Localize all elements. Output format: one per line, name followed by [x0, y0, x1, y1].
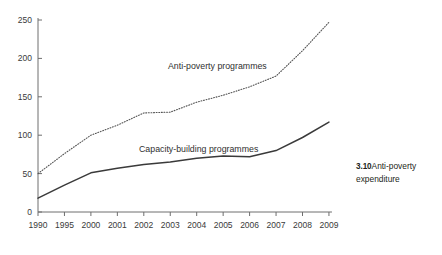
line-chart-svg: [0, 0, 345, 240]
y-axis-tick-label: 100: [8, 131, 32, 140]
x-axis-tick-label: 2009: [314, 221, 344, 230]
figure-caption: 3.10Anti-poverty expenditure: [356, 160, 440, 186]
y-axis-tick-label: 50: [8, 170, 32, 179]
figure-anti-poverty-expenditure: 050100150200250 199019952000200120022003…: [0, 0, 442, 255]
series-label-anti-poverty-programmes: Anti-poverty programmes: [168, 62, 267, 71]
y-axis-tick-label: 150: [8, 93, 32, 102]
figure-caption-number: 3.10: [356, 162, 372, 171]
series-line-capacity-building-programmes: [38, 122, 329, 198]
chart-axes: [38, 18, 332, 216]
chart-plot-area: 050100150200250 199019952000200120022003…: [0, 0, 345, 240]
chart-series-lines: [38, 22, 329, 198]
y-axis-tick-label: 250: [8, 16, 32, 25]
y-axis-tick-label: 0: [8, 208, 32, 217]
series-label-capacity-building-programmes: Capacity-building programmes: [139, 145, 258, 154]
y-axis-tick-label: 200: [8, 54, 32, 63]
